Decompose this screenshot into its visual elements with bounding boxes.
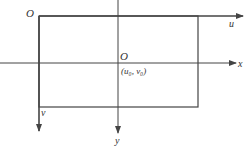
u-axis-label: u [229, 18, 234, 29]
v-axis-label: v [41, 107, 46, 118]
coordinate-diagram: O u x O (u₀, v₀) v y [0, 0, 251, 146]
origin-xy-label: O [120, 50, 128, 62]
origin-uv-label: O [26, 7, 34, 19]
y-axis-label: y [114, 135, 120, 146]
principal-point-label: (u₀, v₀) [121, 66, 146, 76]
x-axis-label: x [237, 58, 243, 69]
